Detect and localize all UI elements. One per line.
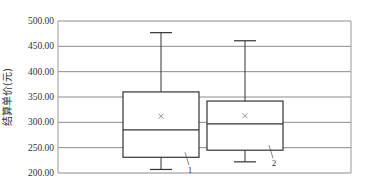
iqr-box bbox=[123, 92, 199, 157]
box-plot-chart: 200.00250.00300.00350.00400.00450.00500.… bbox=[0, 0, 365, 189]
gridlines bbox=[58, 21, 351, 173]
y-tick-label: 450.00 bbox=[28, 41, 54, 51]
iqr-box bbox=[207, 101, 283, 150]
y-tick-label: 400.00 bbox=[28, 67, 54, 77]
y-tick-label: 200.00 bbox=[28, 168, 54, 178]
y-tick-label: 300.00 bbox=[28, 117, 54, 127]
y-tick-label: 500.00 bbox=[28, 16, 54, 26]
box-1: 1 bbox=[123, 33, 199, 176]
box-label: 1 bbox=[188, 165, 193, 175]
box-2: 2 bbox=[207, 41, 283, 168]
y-axis-label: 结算单价(元) bbox=[1, 68, 13, 126]
y-tick-label: 250.00 bbox=[28, 143, 54, 153]
y-tick-labels: 200.00250.00300.00350.00400.00450.00500.… bbox=[28, 16, 54, 178]
box-label: 2 bbox=[272, 158, 277, 168]
y-tick-label: 350.00 bbox=[28, 92, 54, 102]
boxes: 12 bbox=[123, 33, 283, 176]
